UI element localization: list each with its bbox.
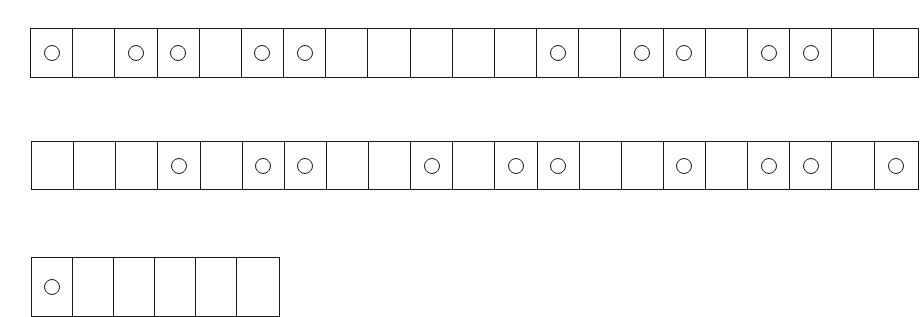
circle-icon [761, 158, 777, 174]
circle-icon [254, 45, 270, 61]
cell-with-circle [115, 29, 157, 77]
cell-empty [237, 258, 278, 316]
circle-icon [634, 45, 650, 61]
cell-with-circle [243, 142, 285, 189]
circle-icon [888, 158, 904, 174]
circle-icon [803, 45, 819, 61]
cell-empty [200, 29, 242, 77]
circle-icon [761, 45, 777, 61]
cell-with-circle [748, 142, 790, 189]
circle-icon [170, 45, 186, 61]
circle-icon [550, 158, 566, 174]
cell-empty [706, 29, 748, 77]
cell-empty [201, 142, 243, 189]
cell-with-circle [495, 142, 537, 189]
cell-empty [832, 142, 874, 189]
circle-icon [676, 45, 692, 61]
cell-with-circle [790, 29, 832, 77]
circle-icon [171, 158, 187, 174]
cell-with-circle [790, 142, 832, 189]
circle-icon [128, 45, 144, 61]
cell-with-circle [664, 29, 706, 77]
cell-with-circle [621, 29, 663, 77]
cell-with-circle [537, 29, 579, 77]
cell-with-circle [875, 142, 917, 189]
cell-empty [368, 29, 410, 77]
circle-icon [44, 45, 60, 61]
cell-empty [579, 29, 621, 77]
cell-empty [453, 29, 495, 77]
circle-icon [550, 45, 566, 61]
cell-with-circle [31, 29, 73, 77]
cell-empty [832, 29, 874, 77]
cell-empty [155, 258, 196, 316]
cell-with-circle [284, 29, 326, 77]
circle-icon [803, 158, 819, 174]
cell-empty [74, 142, 116, 189]
circle-icon [508, 158, 524, 174]
cell-with-circle [748, 29, 790, 77]
cell-empty [411, 29, 453, 77]
cell-empty [326, 29, 368, 77]
cell-empty [73, 29, 115, 77]
cell-empty [114, 258, 155, 316]
cell-empty [73, 258, 114, 316]
cell-empty [874, 29, 916, 77]
cell-empty [453, 142, 495, 189]
cell-empty [622, 142, 664, 189]
circle-icon [44, 279, 60, 295]
cell-with-circle [158, 29, 200, 77]
cell-empty [580, 142, 622, 189]
circle-icon [255, 158, 271, 174]
cell-with-circle [285, 142, 327, 189]
cell-with-circle [158, 142, 200, 189]
cell-with-circle [242, 29, 284, 77]
cell-empty [369, 142, 411, 189]
strip-1 [30, 28, 919, 78]
circle-icon [676, 158, 692, 174]
cell-empty [116, 142, 158, 189]
circle-icon [297, 158, 313, 174]
cell-empty [495, 29, 537, 77]
circle-icon [297, 45, 313, 61]
cell-with-circle [411, 142, 453, 189]
circle-icon [424, 158, 440, 174]
cell-with-circle [32, 258, 73, 316]
strip-3 [31, 257, 280, 317]
cell-with-circle [538, 142, 580, 189]
cell-with-circle [664, 142, 706, 189]
cell-empty [706, 142, 748, 189]
cell-empty [327, 142, 369, 189]
strip-2 [31, 141, 919, 190]
cell-empty [32, 142, 74, 189]
cell-empty [196, 258, 237, 316]
